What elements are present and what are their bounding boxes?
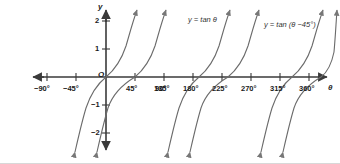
tan-branch-90-270	[168, 10, 230, 152]
x-tick-label--90: −90°	[34, 84, 50, 93]
curve-tan-theta	[75, 10, 323, 152]
x-tick-label-270: 270°	[241, 84, 257, 93]
tangent-graph-figure: −90° −45° 45° 90° 135° 180° 225° 270° 31…	[0, 0, 340, 164]
x-tick-label-360: 360°	[299, 84, 315, 93]
tan-branch-270-450	[261, 10, 323, 152]
x-axis-label: θ	[328, 83, 332, 92]
x-tick-label-180: 180°	[183, 84, 199, 93]
x-axis-group	[33, 73, 327, 81]
tan45-branch-neg45-135	[97, 10, 166, 152]
origin-label: O	[98, 70, 104, 79]
bottom-divider	[0, 163, 340, 164]
x-tick-label-45: 45°	[126, 84, 137, 93]
x-tick-label--45: −45°	[63, 84, 79, 93]
tan45-branch-315-495	[283, 10, 337, 152]
curve-label-tan-shifted: y = tan (θ −45°)	[264, 20, 316, 29]
y-axis-label: y	[98, 2, 102, 11]
curve-label-tan: y = tan θ	[188, 15, 217, 24]
y-tick-label--1: −1	[91, 100, 100, 109]
x-tick-label-225: 225°	[212, 84, 228, 93]
curve-tan-theta-minus-45	[97, 10, 337, 152]
tan45-branch-135-315	[190, 10, 259, 152]
y-tick-label-1: 1	[95, 44, 99, 53]
y-tick-label-2: 2	[95, 16, 99, 25]
x-tick-label-135: 135°	[154, 84, 170, 93]
y-tick-label--2: −2	[91, 128, 100, 137]
x-tick-label-315: 315°	[270, 84, 286, 93]
